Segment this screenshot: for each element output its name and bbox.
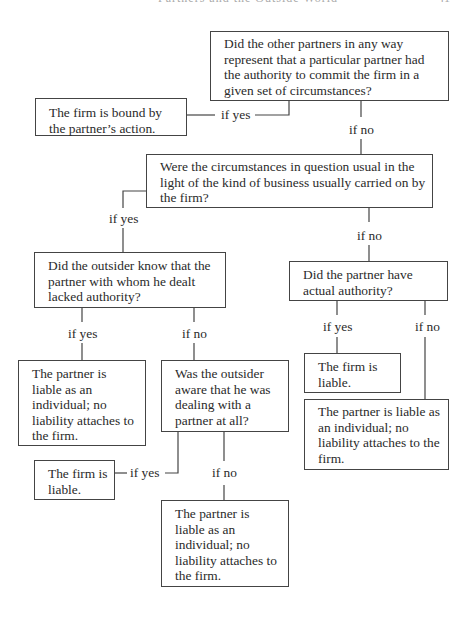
result-firm-liable-authority-text: The firm is liable. (318, 359, 378, 390)
result-partner-liable-unaware: The partner is liable as an individual; … (161, 500, 289, 587)
edge-label-q2-no: if no (356, 228, 383, 243)
result-partner-liable-no-authority: The partner is liable as an individual; … (304, 399, 449, 470)
result-partner-liable-no-authority-text: The partner is liable as an individual; … (318, 404, 440, 466)
edge-label-q5-yes: if yes (129, 465, 160, 480)
question-aware-partner-text: Was the outsider aware that he was deali… (175, 366, 271, 428)
result-firm-bound: The firm is bound by the partner’s actio… (35, 98, 187, 136)
edge-label-q3-yes: if yes (67, 326, 98, 341)
question-usual-circumstances: Were the circumstances in question usual… (146, 154, 433, 208)
result-firm-bound-text: The firm is bound by the partner’s actio… (49, 105, 162, 136)
result-firm-liable-authority: The firm is liable. (304, 353, 401, 393)
question-usual-circumstances-text: Were the circumstances in question usual… (160, 159, 425, 205)
question-actual-authority-text: Did the partner have actual authority? (303, 267, 413, 298)
question-outsider-knew-text: Did the outsider know that the partner w… (48, 258, 211, 304)
edge-label-q5-no: if no (211, 465, 238, 480)
result-firm-liable-aware: The firm is liable. (34, 460, 115, 500)
edge-label-q1-yes: if yes (220, 107, 251, 122)
question-actual-authority: Did the partner have actual authority? (289, 261, 448, 301)
edge-label-q1-no: if no (348, 122, 375, 137)
result-partner-liable-unaware-text: The partner is liable as an individual; … (175, 506, 277, 583)
question-outsider-knew: Did the outsider know that the partner w… (34, 252, 226, 308)
edge-label-q4-no: if no (414, 319, 441, 334)
result-partner-liable-knew-text: The partner is liable as an individual; … (32, 366, 134, 443)
question-represented-authority: Did the other partners in any way repres… (210, 31, 449, 101)
edge-label-q4-yes: if yes (322, 319, 353, 334)
question-aware-partner: Was the outsider aware that he was deali… (161, 360, 289, 432)
result-partner-liable-knew: The partner is liable as an individual; … (18, 360, 146, 446)
edge-label-q3-no: if no (181, 326, 208, 341)
result-firm-liable-aware-text: The firm is liable. (48, 466, 108, 497)
question-represented-authority-text: Did the other partners in any way repres… (224, 36, 424, 98)
edge-label-q2-yes: if yes (108, 211, 139, 226)
